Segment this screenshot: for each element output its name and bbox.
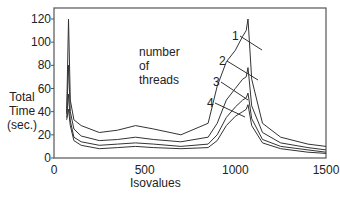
y-tick-label: 120	[31, 12, 51, 26]
plot-frame	[54, 8, 326, 158]
x-tick-label: 500	[135, 163, 155, 177]
series-line-2	[67, 65, 326, 150]
series-line-1	[67, 19, 326, 146]
y-tick-label: 80	[38, 58, 52, 72]
leader-line	[221, 82, 248, 100]
series-label-4: 4	[207, 96, 214, 110]
series-line-3	[67, 93, 326, 152]
leader-line	[240, 36, 262, 50]
leader-line	[215, 103, 245, 117]
x-tick-label: 0	[51, 163, 58, 177]
y-tick-label: 100	[31, 35, 51, 49]
y-axis-label: Total Time (sec.)	[4, 90, 40, 132]
y-label-line: Time	[4, 104, 40, 118]
threads-annotation: number of threads	[139, 45, 180, 87]
series-label-2: 2	[219, 54, 226, 68]
leader-line	[227, 61, 258, 80]
series-line-4	[67, 105, 326, 154]
line-chart: 0204060801001200500100015001234	[0, 0, 340, 197]
annotation-line: number	[139, 45, 180, 59]
series-label-3: 3	[213, 75, 220, 89]
y-label-line: (sec.)	[4, 118, 40, 132]
y-label-line: Total	[4, 90, 40, 104]
annotation-line: of	[139, 59, 180, 73]
series-label-1: 1	[232, 29, 239, 43]
x-axis-label: Isovalues	[130, 176, 181, 190]
annotation-line: threads	[139, 73, 180, 87]
x-tick-label: 1500	[313, 163, 340, 177]
x-tick-label: 1000	[222, 163, 249, 177]
